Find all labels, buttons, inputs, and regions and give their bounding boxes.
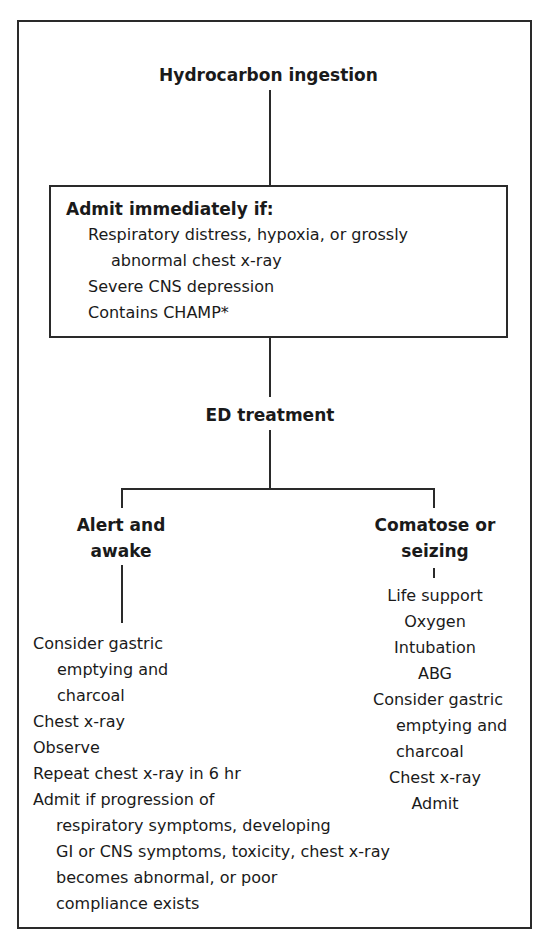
connector-box-to-ed [269,337,271,397]
comatose-step-intubation: Intubation [365,635,505,661]
comatose-step-life-support: Life support [365,583,505,609]
connector-to-alert [121,488,123,508]
admit-criterion-champ: Contains CHAMP* [88,300,229,326]
alert-step-admit-if-cont3: becomes abnormal, or poor [56,865,277,891]
connector-alert-to-steps [121,565,123,623]
alert-step-admit-if-cont2: GI or CNS symptoms, toxicity, chest x-ra… [56,839,390,865]
alert-awake-heading-cont: awake [51,538,191,564]
admit-criterion-respiratory-cont: abnormal chest x-ray [111,248,282,274]
root-node-label: Hydrocarbon ingestion [155,62,382,88]
comatose-step-admit: Admit [365,791,505,817]
alert-step-observe: Observe [33,735,100,761]
alert-step-gastric: Consider gastric [33,631,163,657]
comatose-step-chest-xray: Chest x-ray [365,765,505,791]
branch-split-line [121,488,434,490]
connector-to-comatose [433,488,435,508]
connector-ed-to-branch [269,430,271,489]
alert-step-admit-if-cont4: compliance exists [56,891,199,917]
comatose-step-gastric-cont2: charcoal [396,739,464,765]
alert-awake-heading: Alert and [51,512,191,538]
comatose-step-gastric-cont1: emptying and [396,713,507,739]
alert-step-admit-if-cont1: respiratory symptoms, developing [56,813,331,839]
comatose-step-gastric: Consider gastric [373,687,503,713]
connector-comatose-to-steps [433,568,435,578]
comatose-step-oxygen: Oxygen [365,609,505,635]
comatose-step-abg: ABG [365,661,505,687]
alert-step-chest-xray: Chest x-ray [33,709,125,735]
alert-step-gastric-cont2: charcoal [57,683,125,709]
comatose-heading: Comatose or [365,512,505,538]
admit-criterion-respiratory: Respiratory distress, hypoxia, or grossl… [88,222,408,248]
alert-step-repeat-xray: Repeat chest x-ray in 6 hr [33,761,241,787]
comatose-heading-cont: seizing [365,538,505,564]
alert-step-gastric-cont1: emptying and [57,657,168,683]
admit-criterion-cns: Severe CNS depression [88,274,274,300]
ed-treatment-label: ED treatment [180,402,360,428]
alert-step-admit-if: Admit if progression of [33,787,214,813]
connector-root-to-box [269,90,271,185]
admit-box-heading: Admit immediately if: [66,196,274,222]
